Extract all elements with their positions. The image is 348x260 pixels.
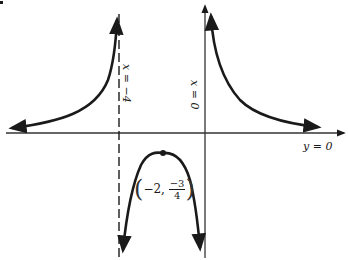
point-label-close-paren: ): [185, 175, 194, 203]
local-maximum-point: [160, 150, 166, 156]
point-label: (−2, −3 4 ): [134, 175, 195, 203]
point-label-open-paren: (: [134, 175, 143, 203]
fraction-denominator: 4: [169, 190, 186, 201]
left-branch-curve: [12, 20, 117, 128]
point-label-y-fraction: −3 4: [169, 178, 186, 201]
asymptote-label-y-0: y = 0: [303, 140, 332, 153]
function-graph: [0, 0, 348, 260]
right-branch-curve: [211, 16, 318, 127]
fraction-numerator: −3: [169, 178, 186, 190]
point-label-x: −2,: [143, 182, 165, 196]
asymptote-label-x-neg4: x = −4: [120, 64, 133, 103]
corner-mark: [0, 1, 3, 4]
asymptote-label-x-0: x = 0: [188, 80, 201, 109]
